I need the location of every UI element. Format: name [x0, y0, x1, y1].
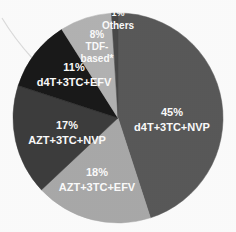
- slice-label-name-tdf-based-line2: based*: [81, 53, 114, 64]
- pie-chart-svg: 45% d4T+3TC+NVP 18% AZT+3TC+EFV 17% AZT+…: [0, 0, 236, 232]
- slice-label-name-azt-3tc-efv: AZT+3TC+EFV: [59, 181, 136, 193]
- scan-artifact-arc: [2, 18, 32, 58]
- slice-label-percent-azt-3tc-efv: 18%: [86, 166, 108, 178]
- slice-label-percent-d4t-3tc-nvp: 45%: [161, 106, 183, 118]
- pie-chart-figure: 45% d4T+3TC+NVP 18% AZT+3TC+EFV 17% AZT+…: [0, 0, 236, 232]
- slice-label-name-others: Others: [102, 20, 135, 31]
- slice-label-percent-azt-3tc-nvp: 17%: [56, 119, 78, 131]
- slice-label-name-d4t-3tc-nvp: d4T+3TC+NVP: [134, 121, 210, 133]
- slice-label-name-d4t-3tc-efv: d4T+3TC+EFV: [37, 76, 112, 88]
- slice-label-percent-others: 1%: [111, 8, 124, 18]
- slice-label-name-azt-3tc-nvp: AZT+3TC+NVP: [28, 134, 106, 146]
- slice-label-name-tdf-based-line1: TDF-: [86, 41, 109, 52]
